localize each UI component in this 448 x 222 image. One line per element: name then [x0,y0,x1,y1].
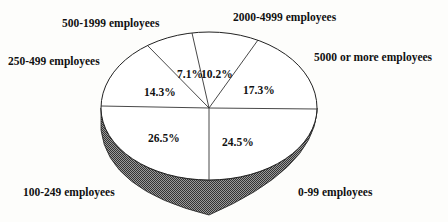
pct-2000-4999: 10.2% [201,68,233,80]
label-100-249: 100-249 employees [23,186,115,198]
pct-5000plus: 17.3% [243,84,275,96]
label-5000plus: 5000 or more employees [314,51,432,63]
pct-500-1999: 7.1% [177,68,203,80]
label-250-499: 250-499 employees [8,55,100,67]
label-0-99: 0-99 employees [298,186,372,198]
pct-250-499: 14.3% [144,86,176,98]
label-2000-4999: 2000-4999 employees [233,11,336,23]
label-500-1999: 500-1999 employees [62,17,159,29]
pct-0-99: 24.5% [222,136,254,148]
pct-100-249: 26.5% [148,132,180,144]
